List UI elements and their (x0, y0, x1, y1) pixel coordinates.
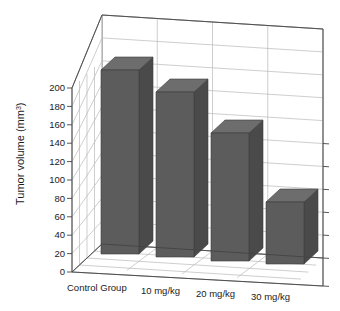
right-axis-ticks (323, 144, 329, 287)
bar-20-mgkg-side (249, 120, 263, 261)
x-category-label-20-mgkg: 20 mg/kg (196, 288, 235, 299)
y-tick-label-140: 140 (49, 137, 65, 148)
bar-control-group (101, 57, 153, 254)
bar-20-mgkg (211, 120, 263, 261)
y-tick-label-160: 160 (49, 119, 65, 130)
chart-container: 0 20 40 60 80 100 120 140 160 180 200 Tu… (0, 0, 340, 311)
y-tick-label-0: 0 (60, 266, 65, 277)
y-tick-label-120: 120 (49, 156, 65, 167)
y-tick-label-60: 60 (54, 211, 65, 222)
bar-10-mgkg (156, 79, 208, 257)
y-axis-ticks (67, 88, 72, 272)
bar-20-mgkg-front (211, 133, 249, 261)
x-axis-category-labels: Control Group 10 mg/kg 20 mg/kg 30 mg/kg (67, 282, 290, 302)
y-axis-title-paren: ) (14, 102, 26, 106)
x-category-label-10-mgkg: 10 mg/kg (141, 285, 180, 296)
bar-10-mgkg-front (156, 92, 194, 257)
bar-30-mgkg (266, 189, 318, 264)
bar-control-group-front (101, 70, 139, 254)
y-tick-label-180: 180 (49, 101, 65, 112)
y-axis-title-text: Tumor volume (mm (14, 110, 26, 205)
y-tick-label-80: 80 (54, 193, 65, 204)
y-tick-label-20: 20 (54, 248, 65, 259)
y-tick-label-40: 40 (54, 229, 65, 240)
y-axis-tick-labels: 0 20 40 60 80 100 120 140 160 180 200 (49, 82, 65, 277)
bar-chart-3d: 0 20 40 60 80 100 120 140 160 180 200 Tu… (0, 0, 340, 311)
y-tick-label-200: 200 (49, 82, 65, 93)
y-tick-label-100: 100 (49, 174, 65, 185)
bar-10-mgkg-side (194, 79, 208, 257)
bar-control-group-side (139, 57, 153, 254)
x-category-label-30-mgkg: 30 mg/kg (251, 291, 290, 302)
x-category-label-control-group: Control Group (67, 282, 127, 293)
y-axis-title: Tumor volume (mm3) (14, 102, 26, 205)
